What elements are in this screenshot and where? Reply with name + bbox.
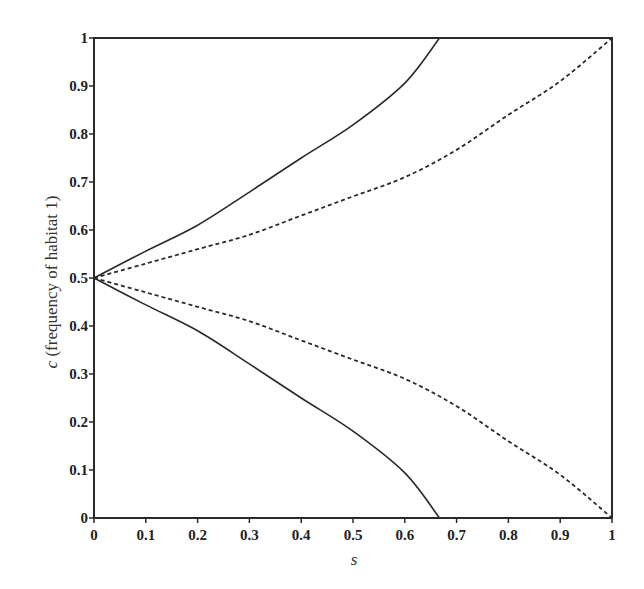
x-tick-label: 0.7 <box>447 527 466 543</box>
series-line-dashed-upper <box>94 38 612 278</box>
x-tick-label: 0.8 <box>499 527 518 543</box>
y-tick-label: 0.4 <box>69 318 88 334</box>
x-tick-label: 0.2 <box>188 527 207 543</box>
y-tick-label: 0.6 <box>69 222 88 238</box>
series-line-dashed-lower <box>94 278 612 518</box>
y-axis-label: c (frequency of habitat 1) <box>42 196 61 369</box>
chart: 00.10.20.30.40.50.60.70.80.91 00.10.20.3… <box>0 0 644 589</box>
y-tick-label: 0.8 <box>69 126 88 142</box>
x-tick-label: 1 <box>608 527 616 543</box>
x-tick-label: 0.6 <box>395 527 414 543</box>
plot-border <box>94 38 612 518</box>
y-axis-ticks: 00.10.20.30.40.50.60.70.80.91 <box>69 30 94 526</box>
x-tick-label: 0.5 <box>344 527 363 543</box>
x-tick-label: 0.4 <box>292 527 311 543</box>
series-group <box>94 38 612 518</box>
y-tick-label: 0.7 <box>69 174 88 190</box>
y-tick-label: 0.3 <box>69 366 88 382</box>
x-tick-label: 0.1 <box>136 527 155 543</box>
y-tick-label: 0.5 <box>69 270 88 286</box>
x-tick-label: 0.9 <box>551 527 570 543</box>
y-tick-label: 0.9 <box>69 78 88 94</box>
x-tick-label: 0.3 <box>240 527 259 543</box>
series-line-solid-lower <box>94 278 440 518</box>
x-axis-label: s <box>351 550 358 569</box>
y-axis-label-description: (frequency of habitat 1) <box>42 196 61 361</box>
x-axis-ticks: 00.10.20.30.40.50.60.70.80.91 <box>90 518 616 543</box>
y-tick-label: 1 <box>81 30 89 46</box>
x-tick-label: 0 <box>90 527 98 543</box>
y-tick-label: 0.2 <box>69 414 88 430</box>
series-line-solid-upper <box>94 38 440 278</box>
y-tick-label: 0.1 <box>69 462 88 478</box>
y-tick-label: 0 <box>81 510 89 526</box>
plot-frame <box>94 38 612 518</box>
